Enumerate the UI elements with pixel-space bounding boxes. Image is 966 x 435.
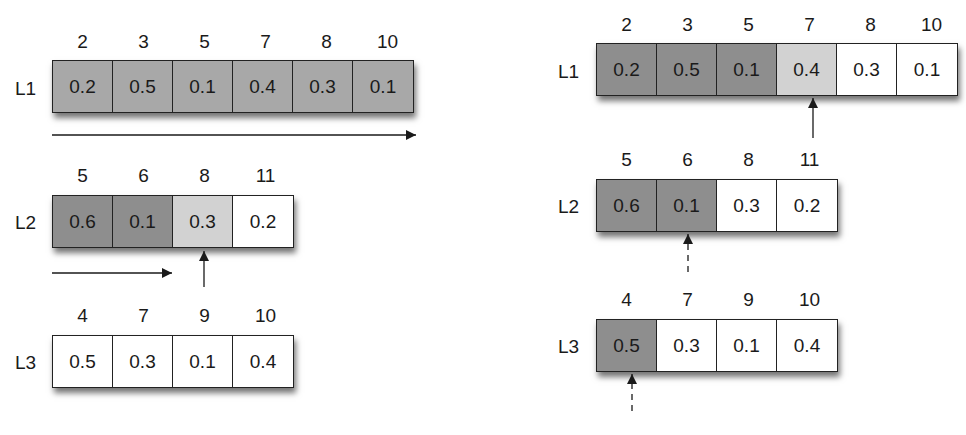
arrows-layer — [0, 0, 966, 435]
